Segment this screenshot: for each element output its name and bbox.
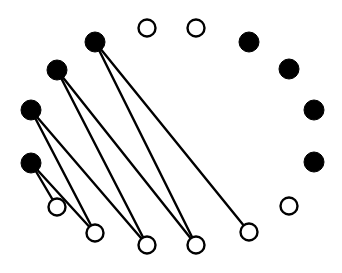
filled-node-f1 [85,32,105,52]
graph-diagram [0,0,342,273]
open-node-o5 [241,224,258,241]
filled-node-f2 [47,60,67,80]
edge-f1-o4 [95,42,196,245]
open-node-o2 [87,225,104,242]
open-node-o3 [139,237,156,254]
edge-f2-o4 [57,70,196,245]
graph-svg [0,0,342,273]
filled-node-f6 [304,100,324,120]
edge-f1-o5 [95,42,249,232]
open-node-o7 [188,20,205,37]
filled-node-f7 [279,59,299,79]
open-node-o8 [139,20,156,37]
open-node-o4 [188,237,205,254]
filled-node-f8 [239,32,259,52]
open-node-o6 [281,198,298,215]
filled-node-f4 [21,153,41,173]
filled-node-f3 [21,100,41,120]
filled-node-f5 [304,152,324,172]
open-node-o1 [49,199,66,216]
